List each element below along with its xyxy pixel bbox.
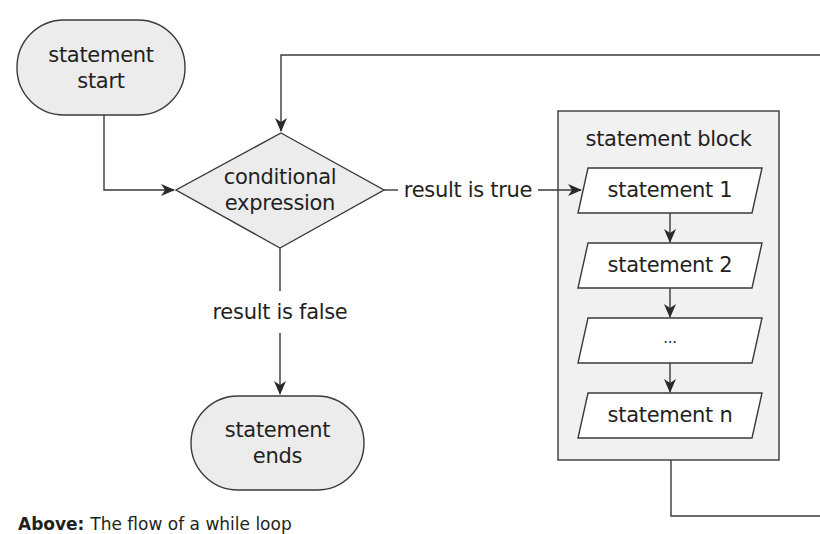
end-label: statement ends xyxy=(191,417,364,469)
start-label: statement start xyxy=(17,42,185,94)
statement-1-label: statement 1 xyxy=(578,177,762,203)
condition-label-line2: expression xyxy=(176,190,384,216)
statement-ellipsis-label: ... xyxy=(578,325,762,351)
start-label-line2: start xyxy=(17,68,185,94)
condition-label: conditional expression xyxy=(176,164,384,216)
statement-block-title: statement block xyxy=(558,126,779,152)
statement-2-label: statement 2 xyxy=(578,252,762,278)
edge-start-to-condition xyxy=(104,115,174,190)
statement-n-label: statement n xyxy=(578,402,762,428)
condition-label-line1: conditional xyxy=(176,164,384,190)
false-edge-label: result is false xyxy=(200,299,360,325)
figure-caption: Above: The flow of a while loop xyxy=(18,514,292,534)
start-label-line1: statement xyxy=(17,42,185,68)
end-label-line2: ends xyxy=(191,443,364,469)
caption-lead: Above: xyxy=(18,514,84,534)
end-label-line1: statement xyxy=(191,417,364,443)
edge-block-exit xyxy=(671,460,820,516)
caption-text: The flow of a while loop xyxy=(90,514,291,534)
true-edge-label: result is true xyxy=(398,177,538,203)
